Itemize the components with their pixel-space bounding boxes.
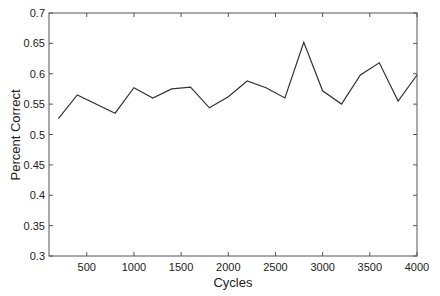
- y-tick-label: 0.5: [30, 129, 45, 141]
- x-tick-label: 1500: [169, 261, 193, 273]
- x-tick-label: 3500: [358, 261, 382, 273]
- x-tick-label: 4000: [405, 261, 429, 273]
- x-tick-label: 3000: [310, 261, 334, 273]
- x-axis-label: Cycles: [213, 275, 253, 290]
- data-line: [58, 42, 417, 119]
- y-tick-label: 0.3: [30, 250, 45, 262]
- y-tick-label: 0.7: [30, 7, 45, 19]
- x-tick-label: 2000: [216, 261, 240, 273]
- y-tick-label: 0.55: [24, 98, 45, 110]
- x-tick-label: 500: [78, 261, 96, 273]
- y-axis-label: Percent Correct: [8, 89, 23, 180]
- y-tick-label: 0.45: [24, 159, 45, 171]
- y-tick-label: 0.65: [24, 37, 45, 49]
- plot-area: 50010001500200025003000350040000.30.350.…: [24, 7, 430, 273]
- line-chart: 50010001500200025003000350040000.30.350.…: [0, 0, 440, 296]
- axes-frame: [49, 13, 417, 256]
- y-tick-label: 0.4: [30, 189, 45, 201]
- x-tick-label: 2500: [263, 261, 287, 273]
- y-tick-label: 0.6: [30, 68, 45, 80]
- x-tick-label: 1000: [122, 261, 146, 273]
- y-tick-label: 0.35: [24, 220, 45, 232]
